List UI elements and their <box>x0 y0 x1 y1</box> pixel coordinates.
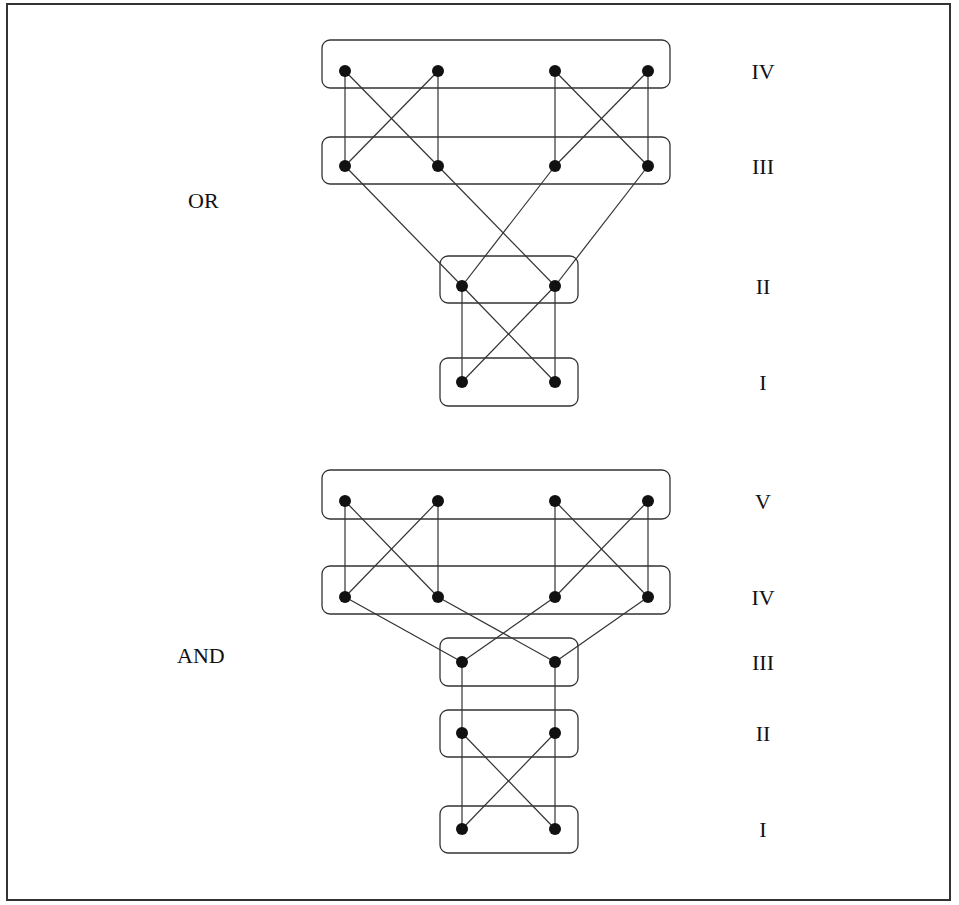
node-dot <box>549 823 561 835</box>
outer-frame <box>7 4 950 900</box>
node-dot <box>549 280 561 292</box>
node-dot <box>549 160 561 172</box>
level-label: V <box>755 489 771 514</box>
node-dot <box>432 495 444 507</box>
node-dot <box>456 727 468 739</box>
node-dot <box>339 591 351 603</box>
node-dot <box>432 591 444 603</box>
node-dot <box>456 376 468 388</box>
diagram-canvas: ORIVIIIIIIANDVIVIIIIII <box>0 0 959 905</box>
level-label: IV <box>751 585 774 610</box>
level-label: II <box>756 721 771 746</box>
node-dot <box>549 65 561 77</box>
diagram-title-or: OR <box>188 188 219 213</box>
level-label: III <box>752 154 774 179</box>
node-dot <box>549 727 561 739</box>
node-dot <box>339 65 351 77</box>
node-dot <box>456 280 468 292</box>
node-dot <box>642 591 654 603</box>
node-dot <box>642 160 654 172</box>
level-label: III <box>752 650 774 675</box>
diagram-title-and: AND <box>177 643 225 668</box>
node-dot <box>642 495 654 507</box>
level-label: IV <box>751 59 774 84</box>
node-dot <box>432 65 444 77</box>
node-dot <box>339 160 351 172</box>
node-dot <box>549 376 561 388</box>
level-label: II <box>756 274 771 299</box>
node-dot <box>642 65 654 77</box>
level-label: I <box>759 370 766 395</box>
node-dot <box>549 495 561 507</box>
node-dot <box>456 656 468 668</box>
node-dot <box>339 495 351 507</box>
level-label: I <box>759 817 766 842</box>
node-dot <box>549 591 561 603</box>
node-dot <box>456 823 468 835</box>
node-dot <box>549 656 561 668</box>
node-dot <box>432 160 444 172</box>
